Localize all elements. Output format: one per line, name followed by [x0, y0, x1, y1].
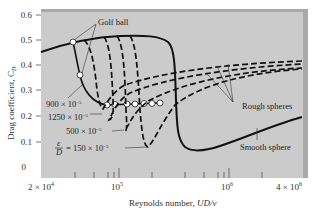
y-tick-0: 0: [22, 162, 27, 172]
y-axis-title: Drag coefficient, CD: [6, 66, 17, 140]
y-tick-0.5: 0.5: [21, 35, 33, 45]
label-rough-spheres: Rough spheres: [242, 101, 292, 111]
label-D: D: [55, 147, 63, 157]
x-tick-2e4: 2 × 104: [28, 181, 54, 192]
y-ticks: [36, 15, 41, 142]
label-smooth-sphere: Smooth sphere: [240, 142, 291, 152]
y-tick-0.3: 0.3: [21, 85, 33, 95]
x-axis-title: Reynolds number, UD/v: [129, 198, 216, 208]
x-tick-1e5: 105: [111, 181, 123, 192]
label-roughness-1250: 1250 × 10−5: [48, 112, 88, 122]
y-tick-0.1: 0.1: [21, 137, 32, 147]
plot-area: [41, 12, 303, 178]
y-tick-0.4: 0.4: [21, 60, 33, 70]
drag-coefficient-chart: 0.6 0.5 0.4 0.3 0.2 0.1 0 2 × 104 105 10…: [0, 0, 317, 210]
x-tick-1e6: 106: [221, 181, 233, 192]
y-tick-0.6: 0.6: [21, 10, 33, 20]
label-roughness-150: = 150 × 10−5: [66, 143, 109, 153]
x-tick-4e6: 4 × 106: [276, 181, 302, 192]
y-tick-0.2: 0.2: [21, 111, 32, 121]
label-golf-ball: Golf ball: [98, 17, 129, 27]
